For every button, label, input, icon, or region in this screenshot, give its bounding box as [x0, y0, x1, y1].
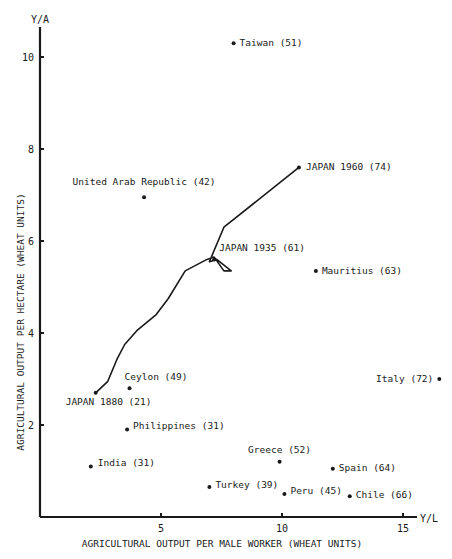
- data-point: Spain (64): [331, 462, 396, 473]
- point-marker: [331, 467, 335, 471]
- point-label: Spain (64): [339, 462, 396, 473]
- y-axis-title: AGRICULTURAL OUTPUT PER HECTARE (WHEAT U…: [15, 193, 26, 450]
- point-marker: [142, 195, 146, 199]
- x-tick-label: 15: [397, 523, 409, 534]
- x-tick-label: 10: [276, 523, 288, 534]
- point-label: Turkey (39): [215, 479, 278, 490]
- data-point: Philippines (31): [125, 420, 225, 432]
- japan-point: [297, 165, 301, 169]
- data-point: Turkey (39): [207, 479, 278, 490]
- point-marker: [128, 386, 132, 390]
- point-label: Philippines (31): [133, 420, 225, 431]
- point-marker: [348, 494, 352, 498]
- point-label: India (31): [98, 457, 155, 468]
- japan-label: JAPAN 1935 (61): [219, 242, 305, 253]
- point-marker: [232, 41, 236, 45]
- scatter-chart: 24681051015 JAPAN 1880 (21)JAPAN 1935 (6…: [0, 0, 452, 559]
- data-point: Taiwan (51): [232, 37, 303, 48]
- y-tick-label: 2: [28, 420, 34, 431]
- data-point: Peru (45): [282, 485, 341, 496]
- data-point: Italy (72): [376, 373, 441, 384]
- point-marker: [278, 460, 282, 464]
- x-axis-title: AGRICULTURAL OUTPUT PER MALE WORKER (WHE…: [82, 538, 362, 549]
- japan-label: JAPAN 1960 (74): [306, 161, 392, 172]
- data-point: United Arab Republic (42): [73, 176, 216, 199]
- data-point: Ceylon (49): [125, 371, 188, 390]
- data-point: India (31): [89, 457, 155, 468]
- japan-line: [96, 167, 299, 392]
- point-marker: [89, 464, 93, 468]
- point-marker: [314, 269, 318, 273]
- point-label: Greece (52): [248, 444, 311, 455]
- point-label: United Arab Republic (42): [73, 176, 216, 187]
- japan-point: [94, 391, 98, 395]
- point-marker: [207, 485, 211, 489]
- japan-label: JAPAN 1880 (21): [66, 396, 152, 407]
- point-label: Italy (72): [376, 373, 433, 384]
- japan-point: [212, 257, 216, 261]
- axes: 24681051015: [22, 27, 417, 534]
- point-marker: [437, 377, 441, 381]
- y-tick-label: 4: [28, 328, 34, 339]
- point-marker: [125, 428, 129, 432]
- point-label: Ceylon (49): [125, 371, 188, 382]
- point-label: Chile (66): [356, 489, 413, 500]
- japan-trajectory: JAPAN 1880 (21)JAPAN 1935 (61)JAPAN 1960…: [66, 161, 392, 406]
- x-axis-end-label: Y/L: [420, 513, 438, 524]
- point-label: Peru (45): [290, 485, 341, 496]
- data-point: Mauritius (63): [314, 265, 402, 276]
- point-label: Mauritius (63): [322, 265, 402, 276]
- data-point: Greece (52): [248, 444, 311, 464]
- point-marker: [282, 492, 286, 496]
- x-tick-label: 5: [158, 523, 164, 534]
- y-axis-end-label: Y/A: [31, 14, 49, 25]
- y-tick-label: 6: [28, 236, 34, 247]
- data-points: Taiwan (51)United Arab Republic (42)Maur…: [73, 37, 442, 500]
- y-tick-label: 8: [28, 144, 34, 155]
- point-label: Taiwan (51): [240, 37, 303, 48]
- data-point: Chile (66): [348, 489, 413, 500]
- y-tick-label: 10: [22, 52, 34, 63]
